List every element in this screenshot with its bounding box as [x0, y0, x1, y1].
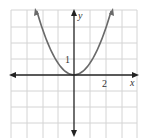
x-axis-label: x [129, 77, 135, 88]
y-tick-label-1: 1 [65, 54, 70, 65]
parabola-graph: y x 2 1 [0, 0, 141, 138]
y-axis-arrow-down-icon [71, 130, 77, 137]
axes [14, 13, 134, 134]
y-axis-label: y [77, 10, 83, 21]
x-axis-arrow-left-icon [9, 72, 16, 78]
x-tick-label-2: 2 [102, 78, 107, 89]
